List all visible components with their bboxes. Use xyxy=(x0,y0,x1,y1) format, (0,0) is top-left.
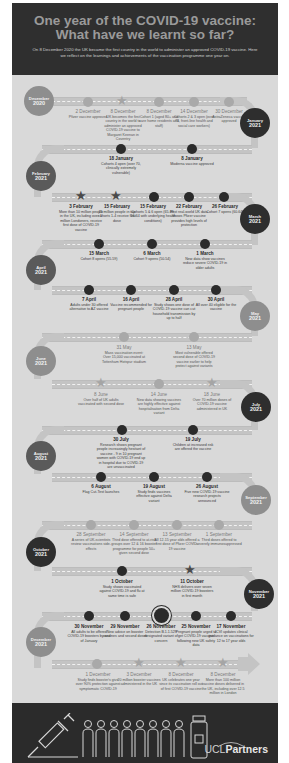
event-dot xyxy=(184,192,194,202)
month-marker-september-2021: September2021 xyxy=(241,485,271,515)
event-dot xyxy=(86,520,96,530)
event-card: 15 MarchCohort 8 opens (55-59) xyxy=(76,251,122,261)
event-card: 16 AprilVaccine recommended for pregnant… xyxy=(108,297,154,312)
event-card: 1 MarchNew data show vaccines reduce sev… xyxy=(182,251,228,270)
event-dot xyxy=(83,97,93,107)
star-icon: ★ xyxy=(75,189,87,202)
event-dot xyxy=(189,332,199,342)
event-dot xyxy=(154,379,164,389)
event-card: 31 MayMass vaccination event: Over 15,00… xyxy=(101,345,147,364)
event-dot xyxy=(211,285,221,295)
event-card: 28 SeptemberA series of UK-scientists re… xyxy=(68,532,114,551)
footer: UCLPartners xyxy=(12,703,278,763)
event-dot xyxy=(149,192,159,202)
infographic-poster: One year of the COVID-19 vaccine: What h… xyxy=(12,3,278,763)
title-line-2: What have we learnt so far? xyxy=(56,27,235,42)
event-dot xyxy=(119,332,129,342)
month-marker-july-2021: July2021 xyxy=(241,392,271,422)
event-dot xyxy=(154,97,164,107)
event-card: 3 December20 million booster vaccines ad… xyxy=(116,672,162,687)
event-dot xyxy=(92,659,102,669)
event-dot xyxy=(84,611,94,621)
event-dot xyxy=(226,611,236,621)
header: One year of the COVID-19 vaccine: What h… xyxy=(12,3,278,75)
event-card: 8 JuneOver half of UK adults vaccinated … xyxy=(78,392,124,407)
event-dot xyxy=(149,472,159,482)
people-icon xyxy=(82,719,186,759)
event-card: 18 JanuaryCohorts 4 open (over 70, clini… xyxy=(98,156,144,175)
timeline-track xyxy=(42,333,252,342)
title-line-1: One year of the COVID-19 vaccine: xyxy=(34,13,256,28)
event-card: 1 DecemberStudy finds booster's give ove… xyxy=(75,672,121,691)
event-dot xyxy=(169,285,179,295)
event-dot xyxy=(191,611,201,621)
event-card: 28 AprilStudy shows one dose of COVID-19… xyxy=(151,297,197,321)
month-marker-april-2021: April2021 xyxy=(26,255,56,285)
intro-text: On 8 December 2020 the UK became the fir… xyxy=(30,47,260,58)
event-dot xyxy=(200,239,210,249)
star-icon: ★ xyxy=(133,656,145,669)
month-marker-january-2021: January2021 xyxy=(240,108,270,138)
event-card: 6 MarchCohort 9 opens (50-54) xyxy=(129,251,175,261)
event-dot xyxy=(188,425,198,435)
star-icon: ★ xyxy=(110,189,122,202)
event-card: 11 OctoberNHS delivers over seven millio… xyxy=(169,579,215,598)
event-dot xyxy=(84,285,94,295)
timeline-track xyxy=(42,97,247,106)
month-marker-may-2021: May2021 xyxy=(240,301,270,331)
event-dot xyxy=(94,239,104,249)
event-card: 19 AugustStudy finds vaccines effective … xyxy=(131,484,177,503)
event-dot xyxy=(147,239,157,249)
event-card: 8 DecemberUK celebrates one year since i… xyxy=(158,672,204,691)
event-card: 1 SeptemberThird doses offered to severe… xyxy=(196,532,242,547)
event-card: 7 AprilAdults under 30 offered alternati… xyxy=(66,297,112,312)
event-dot xyxy=(96,472,106,482)
timeline-track xyxy=(42,426,252,435)
star-icon: ★ xyxy=(95,376,107,389)
event-card: 8 DecemberMore than 100 million vaccine … xyxy=(200,672,246,696)
event-dot xyxy=(214,520,224,530)
event-card: 1 OctoberStudy shows vaccinated against … xyxy=(99,579,145,598)
star-icon: ★ xyxy=(116,94,128,107)
event-dot xyxy=(187,144,197,154)
event-card: 14 SeptemberThird dose offered to at-ris… xyxy=(111,532,157,556)
event-card: 6 AugustFlag Cut-Test launches xyxy=(78,484,124,494)
event-card: 17 NovemberJCVI updates clinical guidanc… xyxy=(208,624,254,643)
event-card: 30 AprilAll over 40 eligible for the vac… xyxy=(193,297,239,312)
event-dot xyxy=(172,520,182,530)
ucl-partners-logo: UCLPartners xyxy=(204,743,268,755)
month-marker-february-2021: February2021 xyxy=(26,161,56,191)
event-dot xyxy=(120,611,130,621)
event-dot xyxy=(224,97,234,107)
timeline-track xyxy=(52,660,242,669)
event-card: 8 JanuaryModerna vaccine approved xyxy=(169,156,215,166)
arrow-right-icon xyxy=(238,653,260,675)
page-title: One year of the COVID-19 vaccine: What h… xyxy=(12,3,278,42)
event-dot xyxy=(219,192,229,202)
month-marker-march-2021: March2021 xyxy=(240,204,270,234)
syringe-icon xyxy=(26,713,78,759)
event-card: 18 JuneOver 70 million doses of COVID-19… xyxy=(189,392,235,411)
event-card: 30 JulyResearch shows pregnant people in… xyxy=(96,437,146,469)
star-icon: ★ xyxy=(217,656,229,669)
month-marker-october-2021: October2021 xyxy=(26,537,56,567)
event-dot xyxy=(202,472,212,482)
star-icon: ★ xyxy=(206,376,218,389)
event-dot xyxy=(117,566,127,576)
month-marker-december-2020: December2020 xyxy=(24,86,54,116)
event-dot xyxy=(129,520,139,530)
timeline-track xyxy=(42,145,252,154)
month-marker-november-2021: November2021 xyxy=(244,579,274,609)
event-dot xyxy=(189,97,199,107)
virus-icon xyxy=(154,608,169,623)
event-card: 14 JuneNew data showing vaccines are hig… xyxy=(136,392,182,416)
month-marker-december-2021: December2021 xyxy=(26,627,56,657)
event-card: 13 SeptemberAll 12-15 year olds offered … xyxy=(154,532,200,551)
month-marker-august-2021: August2021 xyxy=(26,441,56,471)
timeline-track xyxy=(42,612,252,621)
month-marker-june-2021: June2021 xyxy=(26,346,56,376)
star-icon: ★ xyxy=(184,563,196,576)
event-dot xyxy=(117,425,127,435)
event-card: 13 MayMost vulnerable offered second dos… xyxy=(171,345,217,369)
event-dot xyxy=(116,144,126,154)
